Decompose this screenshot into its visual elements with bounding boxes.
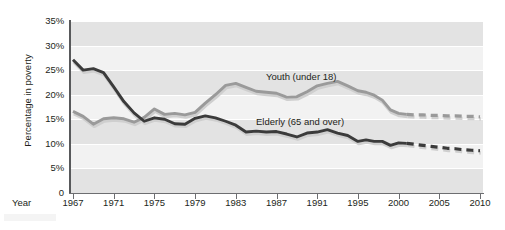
scan-artifact bbox=[4, 214, 56, 221]
series-label-youth: Youth (under 18) bbox=[266, 71, 336, 82]
series-projection-youth bbox=[407, 114, 480, 116]
series-line-elderly bbox=[73, 60, 407, 146]
series-layer bbox=[0, 0, 505, 230]
series-label-elderly: Elderly (65 and over) bbox=[256, 116, 344, 127]
poverty-line-chart: 35%30%25%20%15%10%5%0 Percentage in pove… bbox=[0, 0, 505, 230]
elderly-shadow bbox=[74, 62, 408, 148]
